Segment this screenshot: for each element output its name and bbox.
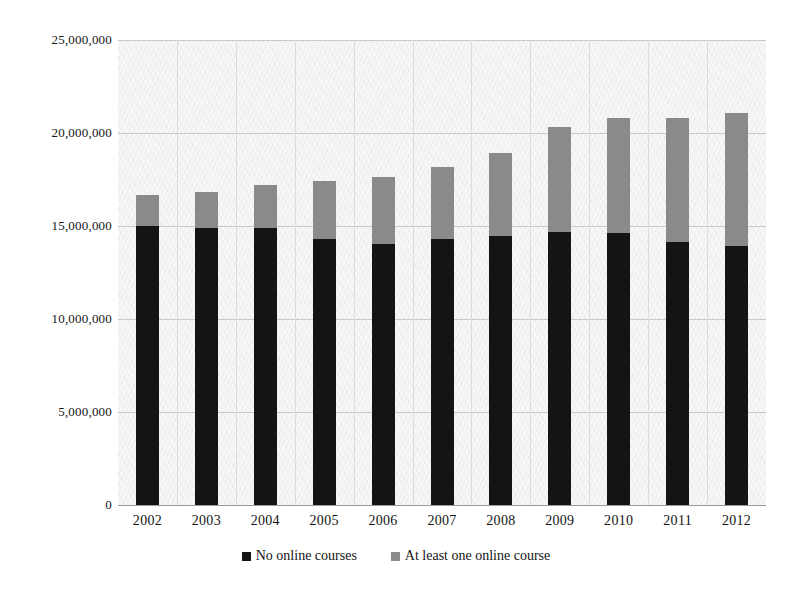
bar-segment-no-online-courses xyxy=(666,242,689,505)
x-axis-tick-label: 2008 xyxy=(471,512,531,530)
bar-segment-no-online-courses xyxy=(607,233,630,505)
x-axis-tick-label: 2010 xyxy=(589,512,649,530)
category-gridline xyxy=(589,40,590,505)
bar-segment-no-online-courses xyxy=(313,239,336,505)
bar-segment-no-online-courses xyxy=(372,244,395,505)
legend-item[interactable]: At least one online course xyxy=(391,548,550,564)
bar-group xyxy=(489,40,512,505)
bar-group xyxy=(431,40,454,505)
bar-group xyxy=(254,40,277,505)
chart-legend: No online coursesAt least one online cou… xyxy=(0,548,792,564)
category-gridline xyxy=(471,40,472,505)
category-gridline xyxy=(648,40,649,505)
bar-segment-no-online-courses xyxy=(725,246,748,505)
bar-segment-at-least-one-online-course xyxy=(548,127,571,231)
x-axis-tick-label: 2002 xyxy=(117,512,177,530)
y-axis-tick-label: 0 xyxy=(4,498,112,511)
x-axis-tick-label: 2012 xyxy=(707,512,767,530)
y-axis-tick-label: 5,000,000 xyxy=(4,405,112,418)
bar-group xyxy=(548,40,571,505)
category-gridline xyxy=(354,40,355,505)
category-gridline xyxy=(530,40,531,505)
bar-group xyxy=(195,40,218,505)
y-axis-tick-label: 20,000,000 xyxy=(4,126,112,139)
plot-area xyxy=(118,40,766,505)
bar-segment-no-online-courses xyxy=(254,228,277,505)
legend-label: No online courses xyxy=(256,548,357,564)
bar-segment-at-least-one-online-course xyxy=(666,118,689,242)
bar-segment-at-least-one-online-course xyxy=(372,177,395,244)
category-gridline xyxy=(236,40,237,505)
bar-segment-at-least-one-online-course xyxy=(136,195,159,226)
bar-group xyxy=(607,40,630,505)
category-gridline xyxy=(177,40,178,505)
bar-segment-at-least-one-online-course xyxy=(489,153,512,237)
y-axis-tick-label: 15,000,000 xyxy=(4,219,112,232)
bar-segment-no-online-courses xyxy=(195,228,218,505)
bar-group xyxy=(136,40,159,505)
legend-item[interactable]: No online courses xyxy=(242,548,357,564)
x-axis-tick-label: 2004 xyxy=(235,512,295,530)
x-axis-tick-label: 2003 xyxy=(176,512,236,530)
category-gridline xyxy=(295,40,296,505)
bar-segment-at-least-one-online-course xyxy=(254,185,277,228)
x-axis-tick-label: 2006 xyxy=(353,512,413,530)
y-axis-tick-label: 25,000,000 xyxy=(4,33,112,46)
bar-segment-at-least-one-online-course xyxy=(607,118,630,232)
x-axis: 2002200320042005200620072008200920102011… xyxy=(118,512,766,540)
legend-swatch-icon xyxy=(391,552,400,561)
legend-swatch-icon xyxy=(242,552,251,561)
bar-segment-at-least-one-online-course xyxy=(725,113,748,246)
bar-group xyxy=(313,40,336,505)
bar-segment-no-online-courses xyxy=(489,236,512,505)
category-gridline xyxy=(707,40,708,505)
bar-group xyxy=(372,40,395,505)
y-axis: 05,000,00010,000,00015,000,00020,000,000… xyxy=(0,0,112,597)
bar-group xyxy=(725,40,748,505)
bar-segment-at-least-one-online-course xyxy=(313,181,336,239)
bar-segment-at-least-one-online-course xyxy=(195,192,218,228)
x-axis-line xyxy=(118,505,766,506)
x-axis-tick-label: 2007 xyxy=(412,512,472,530)
x-axis-tick-label: 2005 xyxy=(294,512,354,530)
stacked-bar-chart: 05,000,00010,000,00015,000,00020,000,000… xyxy=(0,0,792,597)
x-axis-tick-label: 2011 xyxy=(648,512,708,530)
bar-segment-no-online-courses xyxy=(548,232,571,505)
bar-segment-at-least-one-online-course xyxy=(431,167,454,239)
x-axis-tick-label: 2009 xyxy=(530,512,590,530)
category-gridline xyxy=(413,40,414,505)
bar-group xyxy=(666,40,689,505)
y-axis-tick-label: 10,000,000 xyxy=(4,312,112,325)
bar-segment-no-online-courses xyxy=(136,226,159,505)
legend-label: At least one online course xyxy=(405,548,550,564)
bar-segment-no-online-courses xyxy=(431,239,454,505)
